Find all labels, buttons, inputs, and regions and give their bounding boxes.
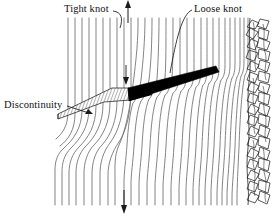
wood-knot-figure: Tight knot Loose knot Discontinuity [0,0,275,216]
grain-direction-arrow-up [125,0,131,23]
grain-direction-arrow-down [121,190,127,214]
loose-knot-label: Loose knot [194,3,242,14]
discontinuity-label: Discontinuity [4,99,62,110]
tight-knot-label: Tight knot [64,3,109,14]
bark-texture-strip [246,18,270,205]
